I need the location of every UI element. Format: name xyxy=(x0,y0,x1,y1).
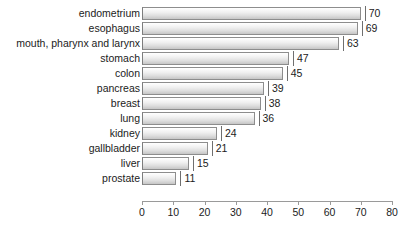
bar[interactable] xyxy=(142,22,358,35)
x-axis-tick xyxy=(361,202,362,205)
bar[interactable] xyxy=(142,67,283,80)
x-axis-tick xyxy=(392,202,393,205)
bar-track: 21 xyxy=(142,142,392,155)
bar[interactable] xyxy=(142,142,208,155)
x-axis-line xyxy=(142,201,393,202)
bar-row[interactable]: kidney24 xyxy=(0,126,406,141)
bar-track: 63 xyxy=(142,37,392,50)
bar-track: 11 xyxy=(142,172,392,185)
bar-value-label: 39 xyxy=(272,81,284,96)
bar-track: 69 xyxy=(142,22,392,35)
bar-end-tick xyxy=(212,141,213,156)
bar[interactable] xyxy=(142,7,361,20)
bar-track: 45 xyxy=(142,67,392,80)
bar-row[interactable]: gallbladder21 xyxy=(0,141,406,156)
bar-track: 70 xyxy=(142,7,392,20)
bar[interactable] xyxy=(142,112,255,125)
bar-row[interactable]: esophagus69 xyxy=(0,21,406,36)
bar-rows: endometrium70esophagus69mouth, pharynx a… xyxy=(0,6,406,186)
category-label: endometrium xyxy=(79,6,140,21)
bar-track: 38 xyxy=(142,97,392,110)
bar[interactable] xyxy=(142,52,289,65)
bar-row[interactable]: breast38 xyxy=(0,96,406,111)
x-axis-tick-label: 0 xyxy=(127,205,157,219)
category-label: lung xyxy=(120,111,140,126)
bar-value-label: 21 xyxy=(216,141,228,156)
bar-value-label: 69 xyxy=(366,21,378,36)
bar-row[interactable]: mouth, pharynx and larynx63 xyxy=(0,36,406,51)
x-axis-tick-label: 30 xyxy=(221,205,251,219)
x-axis-tick xyxy=(298,202,299,205)
bar-end-tick xyxy=(259,111,260,126)
bar-track: 36 xyxy=(142,112,392,125)
bar[interactable] xyxy=(142,82,264,95)
category-label: stomach xyxy=(100,51,140,66)
x-axis-tick-label: 80 xyxy=(377,205,406,219)
bar-track: 47 xyxy=(142,52,392,65)
bar-end-tick xyxy=(293,51,294,66)
bar-track: 24 xyxy=(142,127,392,140)
bar[interactable] xyxy=(142,127,217,140)
bar-value-label: 45 xyxy=(291,66,303,81)
bar-track: 39 xyxy=(142,82,392,95)
bar[interactable] xyxy=(142,157,189,170)
x-axis-tick-label: 50 xyxy=(283,205,313,219)
category-label: liver xyxy=(121,156,140,171)
bar-row[interactable]: colon45 xyxy=(0,66,406,81)
bar-row[interactable]: endometrium70 xyxy=(0,6,406,21)
bar-value-label: 47 xyxy=(297,51,309,66)
x-axis-tick-label: 20 xyxy=(190,205,220,219)
bar-row[interactable]: pancreas39 xyxy=(0,81,406,96)
x-axis-tick-label: 60 xyxy=(315,205,345,219)
bar-value-label: 70 xyxy=(369,6,381,21)
category-label: prostate xyxy=(102,171,140,186)
category-label: pancreas xyxy=(97,81,140,96)
x-axis-tick xyxy=(142,202,143,205)
bar-end-tick xyxy=(268,81,269,96)
category-label: kidney xyxy=(110,126,140,141)
category-label: breast xyxy=(111,96,140,111)
bar-end-tick xyxy=(193,156,194,171)
bar-row[interactable]: stomach47 xyxy=(0,51,406,66)
x-axis-tick-label: 70 xyxy=(346,205,376,219)
category-label: esophagus xyxy=(89,21,140,36)
bar[interactable] xyxy=(142,172,176,185)
x-axis-tick-label: 40 xyxy=(252,205,282,219)
bar-end-tick xyxy=(343,36,344,51)
bar-value-label: 63 xyxy=(347,36,359,51)
bar-row[interactable]: lung36 xyxy=(0,111,406,126)
bar[interactable] xyxy=(142,37,339,50)
category-label: gallbladder xyxy=(89,141,140,156)
bar[interactable] xyxy=(142,97,261,110)
x-axis-tick xyxy=(236,202,237,205)
bar-chart: endometrium70esophagus69mouth, pharynx a… xyxy=(0,0,406,228)
x-axis-tick xyxy=(267,202,268,205)
bar-value-label: 38 xyxy=(269,96,281,111)
bar-end-tick xyxy=(365,6,366,21)
bar-value-label: 36 xyxy=(263,111,275,126)
bar-value-label: 24 xyxy=(225,126,237,141)
bar-value-label: 15 xyxy=(197,156,209,171)
bar-end-tick xyxy=(265,96,266,111)
bar-row[interactable]: prostate11 xyxy=(0,171,406,186)
bar-value-label: 11 xyxy=(184,171,195,186)
bar-end-tick xyxy=(362,21,363,36)
category-label: colon xyxy=(115,66,140,81)
x-axis-tick xyxy=(205,202,206,205)
bar-end-tick xyxy=(287,66,288,81)
x-axis-tick xyxy=(173,202,174,205)
bar-track: 15 xyxy=(142,157,392,170)
bar-end-tick xyxy=(221,126,222,141)
x-axis-tick xyxy=(330,202,331,205)
bar-end-tick xyxy=(180,171,181,186)
x-axis-tick-label: 10 xyxy=(158,205,188,219)
category-label: mouth, pharynx and larynx xyxy=(16,36,140,51)
bar-row[interactable]: liver15 xyxy=(0,156,406,171)
